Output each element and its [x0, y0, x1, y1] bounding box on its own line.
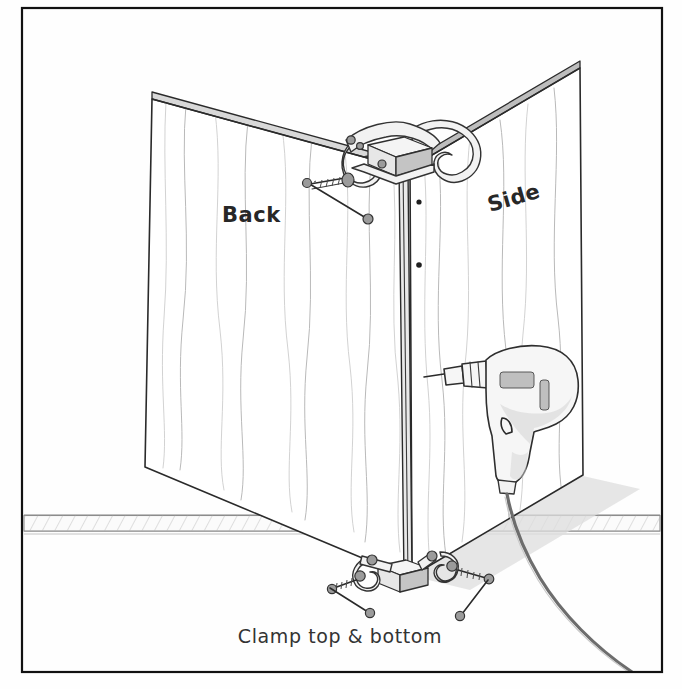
drill-side-vent: [540, 380, 549, 410]
drill-strain-relief: [498, 480, 516, 494]
top-clamp-knob-a: [347, 136, 355, 144]
drill-vent-panel: [500, 372, 534, 388]
label-back: Back: [222, 203, 281, 227]
woodworking-illustration-svg: Back Side Clamp top & bottom: [0, 0, 682, 689]
illustration-root: Back Side Clamp top & bottom: [0, 0, 682, 689]
top-clamp-knob-b: [357, 143, 364, 150]
top-clamp-knob-c: [378, 160, 386, 168]
caption-clamp-top-and-bottom: Clamp top & bottom: [238, 625, 442, 647]
